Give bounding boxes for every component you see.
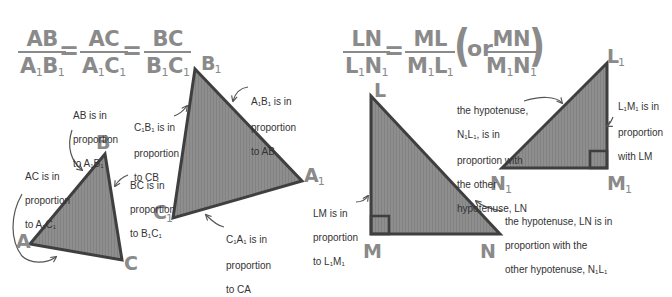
fraction-bar — [405, 51, 455, 53]
vertex-label-n: N — [480, 240, 495, 262]
note-ab-proportion: AB is in proportion to A1B1 — [73, 98, 118, 184]
fraction-bc-over-b1c1: BC B1C1 — [144, 28, 191, 84]
fraction-bar — [144, 51, 191, 53]
note-c1b1-proportion: C1B1 is in proportion to CB — [134, 110, 179, 196]
arrow-a1b1 — [233, 87, 248, 101]
note-a1b1-proportion: A1B1 is in proportion to AB — [251, 84, 296, 170]
note-c1a1-proportion: C1A1 is in proportion to CA — [226, 222, 271, 297]
vertex-label-l1: L1 — [607, 45, 624, 69]
equals-sign: = — [384, 37, 404, 65]
close-parenthesis: ) — [529, 24, 545, 68]
fraction-bar — [80, 51, 128, 53]
fraction-ac-over-a1c1: AC A1C1 — [80, 28, 128, 84]
numerator: ML — [412, 28, 449, 50]
vertex-label-m1: M1 — [607, 172, 631, 196]
arrow-n1l1 — [524, 97, 562, 103]
numerator: AC — [87, 28, 122, 50]
arrow-c1a1 — [206, 215, 224, 227]
equals-sign: = — [59, 37, 79, 65]
note-n1l1-hypotenuse-proportion: the hypotenuse, N1L1, is in proportion w… — [457, 93, 528, 227]
denominator: M1L1 — [405, 55, 455, 84]
denominator: A1C1 — [80, 55, 128, 84]
numerator: MN — [491, 28, 532, 50]
note-l1m1-proportion: L1M1 is in proportion with LM — [618, 89, 663, 175]
vertex-label-l: L — [374, 79, 385, 101]
denominator: B1C1 — [144, 55, 191, 84]
equals-sign: = — [122, 37, 142, 65]
note-lm-proportion: LM is in proportion to L1M1 — [313, 196, 358, 282]
note-ac-proportion: AC is in proportion to A1C1 — [25, 159, 70, 245]
fraction-bar — [343, 51, 390, 53]
numerator: AB — [25, 28, 60, 50]
vertex-label-m: M — [363, 240, 381, 262]
vertex-label-a1: A1 — [304, 164, 324, 188]
vertex-label-b1: B1 — [201, 52, 220, 76]
fraction-ln-over-l1n1: LN L1N1 — [343, 28, 390, 84]
fraction-ml-over-m1l1: ML M1L1 — [405, 28, 455, 84]
numerator: BC — [151, 28, 185, 50]
vertex-label-c: C — [124, 252, 137, 274]
numerator: LN — [350, 28, 384, 50]
